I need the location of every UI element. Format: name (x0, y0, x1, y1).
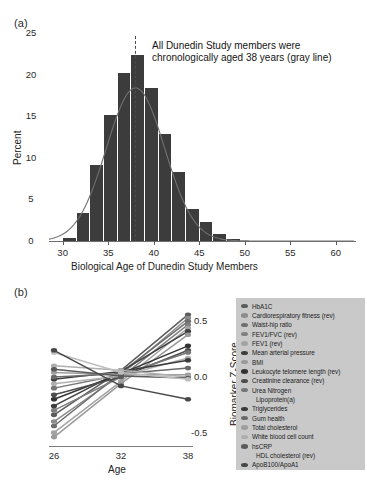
legend-marker-icon (240, 442, 249, 451)
panel-b-data-point (51, 393, 57, 398)
legend-item[interactable]: ApoB100/ApoA1 (240, 460, 299, 469)
panel-a-xtick-60: 60 (325, 247, 347, 258)
panel-b-data-point (185, 350, 191, 355)
panel-a-x-axis-line (49, 241, 356, 242)
legend-marker-icon (240, 386, 249, 395)
legend-marker-icon (240, 358, 249, 367)
legend-item[interactable]: Lipoprotein(a) (240, 395, 295, 404)
legend-item[interactable]: White blood cell count (240, 432, 313, 441)
panel-b-data-point (51, 419, 57, 424)
legend-item-label: HbA1C (252, 303, 272, 310)
panel-b-legend: HbA1CCardiorespiratory fitness (rev)Wais… (236, 298, 365, 470)
panel-a-xtick-mark (154, 241, 155, 245)
panel-a-xtick-mark (290, 241, 291, 245)
panel-b-xtick-26: 26 (44, 450, 64, 461)
panel-a-reference-line-38 (135, 36, 136, 242)
legend-item-label: Gum health (252, 415, 285, 422)
legend-item-label: Urea Nitrogen (252, 387, 291, 394)
panel-b-x-axis-title: Age (108, 464, 126, 475)
legend-item[interactable]: FEV1 (rev) (240, 339, 282, 348)
panel-a-ytick-20: 20 (20, 69, 42, 80)
legend-marker-icon (240, 404, 249, 413)
panel-a-ytick-15: 15 (20, 110, 42, 121)
legend-item-label: HDL cholesterol (rev) (256, 452, 315, 459)
legend-marker-icon (240, 330, 249, 339)
panel-b-data-point (51, 381, 57, 386)
legend-item-label: Waist-hip ratio (252, 321, 292, 328)
legend-item-label: hsCRP (252, 443, 272, 450)
legend-marker-icon (240, 348, 249, 357)
panel-a-xtick-50: 50 (234, 247, 256, 258)
legend-marker-icon (240, 376, 249, 385)
legend-item[interactable]: Cardiorespiratory fitness (rev) (240, 311, 335, 320)
legend-item-label: ApoB100/ApoA1 (252, 461, 299, 468)
panel-a-y-axis-title: Percent (12, 131, 23, 165)
panel-a-annotation: All Dunedin Study members were chronolog… (152, 40, 332, 65)
panel-b-data-point (118, 384, 124, 389)
legend-marker-icon (240, 367, 249, 376)
panel-b-data-point (185, 344, 191, 349)
panel-a-normal-curve-path (49, 88, 354, 241)
panel-b-plot-area (54, 308, 188, 446)
panel-b-xtick-38: 38 (178, 450, 198, 461)
panel-b-data-point (185, 397, 191, 402)
legend-marker-icon (240, 339, 249, 348)
panel-b-ytick--0.5: -0.5 (191, 427, 217, 438)
legend-item[interactable]: Mean arterial pressure (240, 348, 315, 357)
legend-item[interactable]: Leukocyte telomere length (rev) (240, 367, 340, 376)
panel-a-xtick-mark (199, 241, 200, 245)
panel-b-trajectories: (b) 0.5 0.0 -0.5 Biomarker Z-Score 26 32… (0, 278, 367, 482)
legend-item[interactable]: hsCRP (240, 442, 272, 451)
panel-b-data-point (51, 386, 57, 391)
legend-item-label: Lipoprotein(a) (256, 396, 295, 403)
panel-a-xtick-mark (245, 241, 246, 245)
legend-marker-icon (240, 320, 249, 329)
panel-a-xtick-mark (108, 241, 109, 245)
legend-item-label: Creatinine clearance (rev) (252, 377, 324, 384)
legend-item[interactable]: Triglycerides (240, 404, 287, 413)
panel-a-ytick-10: 10 (20, 152, 42, 163)
legend-item-label: Cardiorespiratory fitness (rev) (252, 312, 335, 319)
panel-a-xtick-55: 55 (279, 247, 301, 258)
legend-item[interactable]: Gum health (240, 414, 285, 423)
panel-a-xtick-40: 40 (143, 247, 165, 258)
legend-item-label: Triglycerides (252, 405, 287, 412)
legend-item[interactable]: Creatinine clearance (rev) (240, 376, 324, 385)
panel-b-data-point (51, 408, 57, 413)
legend-item-label: White blood cell count (252, 433, 313, 440)
legend-item[interactable]: Urea Nitrogen (240, 386, 291, 395)
legend-marker-icon (240, 414, 249, 423)
panel-a-xtick-30: 30 (52, 247, 74, 258)
panel-b-ytick-0.0: 0.0 (194, 371, 220, 382)
legend-item[interactable]: BMI (240, 358, 263, 367)
panel-b-series-lines (54, 308, 188, 446)
panel-b-data-point (51, 348, 57, 353)
legend-item-label: Mean arterial pressure (252, 349, 315, 356)
legend-item-label: BMI (252, 359, 263, 366)
panel-a-x-axis-title: Biological Age of Dunedin Study Members (71, 261, 258, 272)
legend-item[interactable]: Total cholesterol (240, 423, 297, 432)
legend-item-label: FEV1 (rev) (252, 340, 282, 347)
panel-b-data-point (51, 435, 57, 440)
panel-b-data-point (185, 332, 191, 337)
legend-item[interactable]: FEV1/FVC (rev) (240, 330, 297, 339)
panel-b-data-point (185, 358, 191, 363)
panel-b-data-point (51, 424, 57, 429)
panel-b-data-point (185, 366, 191, 371)
panel-a-xtick-35: 35 (97, 247, 119, 258)
figure-container: (a) 25 20 15 10 5 0 Percent All Dunedin … (0, 0, 367, 482)
panel-b-data-point (51, 375, 57, 380)
legend-item[interactable]: Waist-hip ratio (240, 320, 292, 329)
panel-a-ytick-5: 5 (20, 193, 42, 204)
legend-item-label: FEV1/FVC (rev) (252, 331, 297, 338)
legend-item[interactable]: HbA1C (240, 302, 272, 311)
legend-item[interactable]: HDL cholesterol (rev) (240, 451, 315, 460)
legend-marker-icon (240, 423, 249, 432)
panel-b-data-point (118, 370, 124, 375)
panel-b-xtick-32: 32 (111, 450, 131, 461)
legend-marker-icon (240, 302, 249, 311)
panel-b-data-point (51, 397, 57, 402)
panel-b-ytick-0.5: 0.5 (194, 315, 220, 326)
legend-marker-icon (240, 311, 249, 320)
panel-b-data-point (51, 367, 57, 372)
